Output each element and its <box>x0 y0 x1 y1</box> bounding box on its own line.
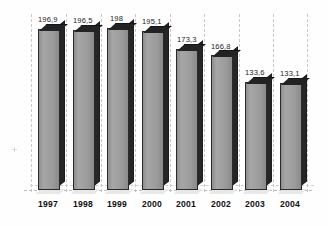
x-axis-label-2001: 2001 <box>169 199 203 209</box>
bar-2000 <box>142 31 164 190</box>
bar-1998 <box>73 30 95 190</box>
x-axis-label-1997: 1997 <box>31 199 65 209</box>
bar-front-face <box>211 55 233 190</box>
gridline <box>307 14 308 192</box>
bar-2001 <box>176 49 198 190</box>
value-label-1998: 196,5 <box>73 16 93 25</box>
bar-front-face <box>73 30 95 190</box>
gridline <box>31 14 32 192</box>
bar-2004 <box>280 83 302 190</box>
bar-front-face <box>245 82 267 190</box>
bar-2003 <box>245 82 267 190</box>
plot-area: 196,9 196,5 198 195,1 173,3 166,8 133,6 … <box>0 0 328 226</box>
value-label-2002: 166,8 <box>211 42 231 51</box>
x-axis-label-2003: 2003 <box>238 199 272 209</box>
x-axis-label-2000: 2000 <box>135 199 169 209</box>
bar-front-face <box>107 28 129 190</box>
scan-artifact <box>12 147 17 152</box>
bar-front-face <box>280 83 302 190</box>
value-label-2001: 173,3 <box>177 35 197 44</box>
x-axis-label-1999: 1999 <box>100 199 134 209</box>
bar-2002 <box>211 55 233 190</box>
gridline <box>273 14 274 192</box>
bar-chart: 196,9 196,5 198 195,1 173,3 166,8 133,6 … <box>0 0 328 226</box>
gridline <box>101 14 102 192</box>
value-label-2003: 133,6 <box>245 68 265 77</box>
gridline <box>170 14 171 192</box>
x-axis-label-2004: 2004 <box>273 199 307 209</box>
value-label-1997: 196,9 <box>38 15 58 24</box>
value-label-1999: 198 <box>110 14 123 23</box>
bar-front-face <box>176 49 198 190</box>
gridline <box>135 14 136 192</box>
x-axis-label-1998: 1998 <box>66 199 100 209</box>
value-label-2000: 195,1 <box>142 17 162 26</box>
bar-1997 <box>38 29 60 190</box>
bar-front-face <box>142 31 164 190</box>
gridline <box>204 14 205 192</box>
gridline <box>66 14 67 192</box>
bar-front-face <box>38 29 60 190</box>
x-axis-label-2002: 2002 <box>204 199 238 209</box>
bar-1999 <box>107 28 129 190</box>
gridline <box>239 14 240 192</box>
value-label-2004: 133,1 <box>280 69 300 78</box>
